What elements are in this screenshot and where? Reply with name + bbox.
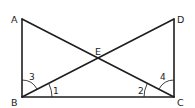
point-label-b: B [11, 97, 18, 108]
point-label-e: E [95, 46, 101, 57]
point-label-a: A [11, 14, 18, 25]
point-label-c: C [177, 97, 184, 108]
angle-1-arc [49, 84, 52, 97]
angle-2-arc [144, 84, 147, 97]
angle-label-2: 2 [138, 86, 144, 96]
angle-label-3: 3 [29, 72, 35, 82]
geometry-diagram: A B C D E 1 2 3 4 [0, 0, 195, 108]
point-label-d: D [177, 14, 184, 25]
angle-label-1: 1 [53, 86, 59, 96]
angle-label-4: 4 [160, 72, 166, 82]
